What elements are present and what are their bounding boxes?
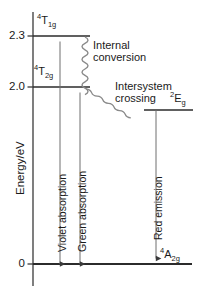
internal-conversion-line2: conversion [93, 51, 146, 63]
term-eg-subscript: g [182, 98, 186, 107]
y-axis-title: Energy/eV [14, 141, 27, 195]
intersystem-crossing-line1: Intersystem [115, 80, 172, 92]
term-t1g-subscript: 1g [48, 20, 56, 29]
term-t2g-main: T [38, 65, 45, 77]
intersystem-crossing-line2: crossing [115, 92, 172, 104]
term-t2g-subscript: 2g [45, 71, 53, 80]
term-eg-main: E [174, 92, 181, 104]
label-red-emission: Red emission [153, 176, 165, 240]
wavy-internal-conversion [82, 37, 88, 95]
label-green-absorption: Green absorption [77, 171, 89, 252]
label-intersystem-crossing: Intersystem crossing [115, 80, 172, 105]
term-a2g-subscript: 2g [172, 254, 180, 263]
energy-level-diagram: 2.3 2.0 0 Energy/eV 4T1g 4T2g 2Eg 4A2g I… [0, 0, 203, 292]
label-violet-absorption: Violet absorption [57, 174, 69, 252]
label-internal-conversion: Internal conversion [93, 39, 146, 64]
internal-conversion-line1: Internal [93, 39, 146, 51]
term-symbol-t1g: 4T1g [37, 14, 56, 26]
term-symbol-t2g: 4T2g [34, 65, 53, 77]
term-symbol-eg: 2Eg [170, 92, 186, 104]
y-tick-label-0: 0 [2, 257, 25, 270]
y-tick-label-2-3: 2.3 [2, 29, 25, 42]
term-t1g-main: T [41, 14, 48, 26]
term-a2g-main: A [164, 248, 171, 260]
term-symbol-a2g: 4A2g [160, 248, 180, 260]
y-tick-label-2-0: 2.0 [2, 80, 25, 93]
